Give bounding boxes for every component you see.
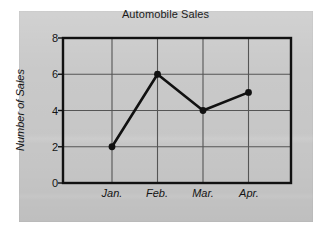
data-point-feb <box>154 71 161 78</box>
line-chart-svg <box>49 32 305 192</box>
plot-area <box>63 38 291 183</box>
chart-title: Automobile Sales <box>0 8 331 20</box>
y-axis-title: Number of Sales <box>14 50 26 170</box>
data-point-jan <box>109 143 116 150</box>
data-point-apr <box>245 89 252 96</box>
grid-horizontal <box>63 74 291 147</box>
data-point-mar <box>200 107 207 114</box>
